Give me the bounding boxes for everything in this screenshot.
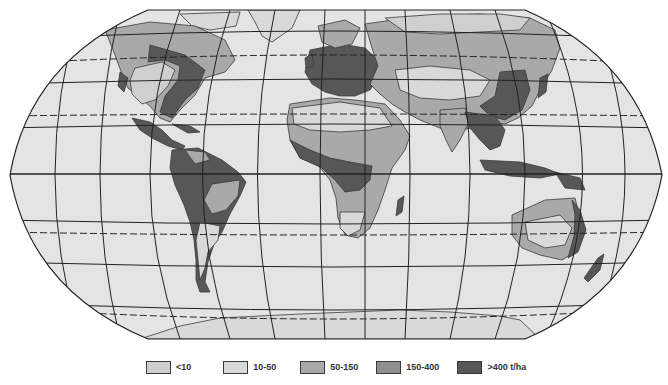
legend-swatch [300, 361, 325, 374]
legend-item-10-50: 10-50 [223, 361, 276, 374]
legend-item-lt10: <10 [146, 361, 191, 374]
legend-item-50-150: 50-150 [300, 361, 358, 374]
legend-label: 150-400 [406, 362, 439, 372]
legend-item-gt400: >400 t/ha [457, 361, 526, 374]
legend-label: <10 [176, 362, 191, 372]
legend-item-150-400: 150-400 [376, 361, 439, 374]
world-map [0, 0, 668, 350]
legend-label: 50-150 [330, 362, 358, 372]
legend-swatch [457, 361, 482, 374]
legend-label: >400 t/ha [487, 362, 526, 372]
legend-swatch [376, 361, 401, 374]
legend-swatch [146, 361, 171, 374]
legend: <10 10-50 50-150 150-400 >400 t/ha [146, 357, 540, 377]
legend-swatch [223, 361, 248, 374]
legend-label: 10-50 [253, 362, 276, 372]
